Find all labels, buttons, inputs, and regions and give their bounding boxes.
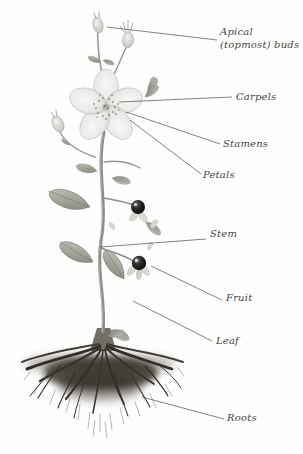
carpels-illustration xyxy=(102,103,109,110)
apical-bud-left xyxy=(91,12,104,34)
label-apical-buds: Apical (topmost) buds xyxy=(220,26,303,51)
label-roots: Roots xyxy=(227,412,257,425)
label-stem: Stem xyxy=(210,228,237,241)
label-leaf: Leaf xyxy=(216,335,239,348)
leader-line-stem xyxy=(100,239,206,247)
lateral-bud-left xyxy=(49,110,66,134)
leader-line-roots xyxy=(142,397,224,419)
leaf-small-node-right xyxy=(111,174,132,186)
label-carpels: Carpels xyxy=(236,91,276,104)
flower-illustration xyxy=(66,69,146,145)
plant-illustration xyxy=(0,0,303,454)
leader-line-leaf xyxy=(133,301,212,341)
side-bud-2 xyxy=(108,222,116,231)
label-stamens: Stamens xyxy=(223,138,268,151)
leaf-large-upper xyxy=(45,185,93,215)
leader-line-fruit xyxy=(151,266,222,300)
leaf-large-mid xyxy=(55,236,97,268)
label-petals: Petals xyxy=(203,169,235,182)
diagram-canvas: Apical (topmost) buds Carpels Stamens Pe… xyxy=(0,0,303,454)
bract-bud-stalk xyxy=(60,137,71,147)
leaf-small-node-left xyxy=(74,162,98,175)
apical-bud-right xyxy=(120,20,135,49)
bract-top-right xyxy=(102,58,115,67)
roots-illustration xyxy=(22,328,184,438)
leaf-large-lower xyxy=(98,245,130,282)
label-fruit: Fruit xyxy=(226,292,252,305)
leader-line-petals xyxy=(130,120,201,174)
